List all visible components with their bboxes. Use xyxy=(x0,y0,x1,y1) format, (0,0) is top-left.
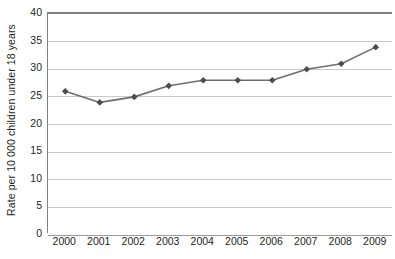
x-tick-label: 2009 xyxy=(363,236,386,247)
plot-area: 2000: 262001: 242002: 252003: 272004: 28… xyxy=(47,12,392,233)
data-point-marker: 2009: 34 xyxy=(372,44,379,51)
y-tick-label: 25 xyxy=(30,90,42,101)
y-tick-label: 20 xyxy=(30,117,42,128)
data-point-marker: 2002: 25 xyxy=(131,94,138,101)
y-tick-label: 15 xyxy=(30,145,42,156)
x-tick-label: 2001 xyxy=(87,236,110,247)
data-point-marker: 2004: 28 xyxy=(200,77,207,84)
y-tick-label: 0 xyxy=(36,228,42,239)
data-series-line: 2000: 262001: 242002: 252003: 272004: 28… xyxy=(48,14,393,235)
x-tick-label: 2003 xyxy=(156,236,179,247)
data-point-marker: 2006: 28 xyxy=(269,77,276,84)
x-tick-label: 2007 xyxy=(294,236,317,247)
x-tick-label: 2008 xyxy=(329,236,352,247)
x-axis-tick-labels: 2000200120022003200420052006200720082009 xyxy=(47,236,392,254)
x-tick-label: 2005 xyxy=(225,236,248,247)
data-point-marker: 2001: 24 xyxy=(96,99,103,106)
data-point-marker: 2007: 30 xyxy=(303,66,310,73)
y-tick-label: 30 xyxy=(30,62,42,73)
y-axis-tick-labels: 0510152025303540 xyxy=(22,12,45,233)
y-axis-title: Rate per 10 000 children under 18 years xyxy=(0,0,22,240)
y-tick-label: 35 xyxy=(30,34,42,45)
data-point-marker: 2003: 27 xyxy=(165,83,172,90)
y-tick-label: 10 xyxy=(30,173,42,184)
y-axis-title-text: Rate per 10 000 children under 18 years xyxy=(5,24,17,216)
series-line xyxy=(65,47,376,102)
x-tick-label: 2002 xyxy=(122,236,145,247)
y-tick-label: 40 xyxy=(30,7,42,18)
y-tick-label: 5 xyxy=(36,200,42,211)
x-tick-label: 2004 xyxy=(191,236,214,247)
x-tick-label: 2000 xyxy=(53,236,76,247)
data-point-marker: 2005: 28 xyxy=(234,77,241,84)
data-point-marker: 2008: 31 xyxy=(338,60,345,67)
x-tick-label: 2006 xyxy=(260,236,283,247)
data-point-marker: 2000: 26 xyxy=(62,88,69,95)
line-chart: Rate per 10 000 children under 18 years … xyxy=(0,0,395,259)
